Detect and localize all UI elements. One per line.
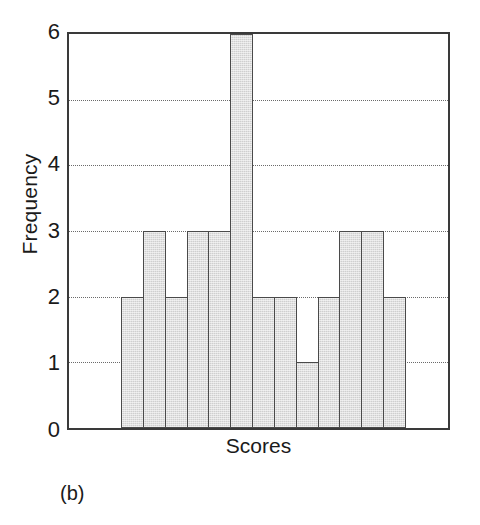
gridline-3 <box>69 231 448 232</box>
bar <box>252 297 275 428</box>
bar <box>296 362 319 428</box>
plot-area <box>67 32 450 430</box>
bar <box>208 231 231 428</box>
bar <box>165 297 188 428</box>
bar <box>361 231 384 428</box>
bar <box>339 231 362 428</box>
y-tick-label-0: 0 <box>34 419 60 441</box>
y-tick-label-5: 5 <box>34 87 60 109</box>
y-tick-label-6: 6 <box>34 21 60 43</box>
histogram-figure: Frequency 6 5 4 3 2 1 0 Scores (b) <box>0 0 480 525</box>
gridline-5 <box>69 100 448 101</box>
y-axis-tick-labels: 6 5 4 3 2 1 0 <box>30 0 60 525</box>
bar <box>187 231 210 428</box>
y-tick-label-3: 3 <box>34 220 60 242</box>
plot-inner <box>69 34 448 428</box>
bar <box>143 231 166 428</box>
gridline-4 <box>69 165 448 166</box>
bar <box>383 297 406 428</box>
x-axis-title: Scores <box>67 434 450 458</box>
panel-caption: (b) <box>60 482 84 505</box>
y-tick-label-1: 1 <box>34 352 60 374</box>
bar <box>274 297 297 428</box>
bar <box>230 34 253 428</box>
y-tick-label-2: 2 <box>34 286 60 308</box>
y-tick-label-4: 4 <box>34 153 60 175</box>
bar <box>121 297 144 428</box>
bar <box>318 297 341 428</box>
